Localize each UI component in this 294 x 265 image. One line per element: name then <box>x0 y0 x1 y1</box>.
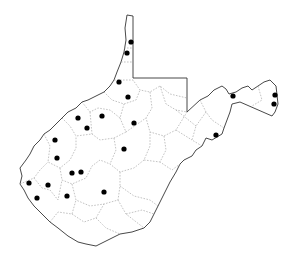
locality-dot <box>45 182 50 187</box>
locality-dot <box>75 115 80 120</box>
locality-dot <box>121 146 126 151</box>
locality-dot <box>84 125 89 130</box>
locality-dot <box>69 170 74 175</box>
locality-dot <box>213 132 218 137</box>
locality-dot <box>128 39 133 44</box>
west-virginia-map <box>0 0 294 265</box>
locality-dot <box>125 94 130 99</box>
locality-dot <box>116 79 121 84</box>
locality-dot <box>34 195 39 200</box>
state-outline <box>20 15 278 246</box>
locality-dot <box>101 189 106 194</box>
locality-dot <box>230 93 235 98</box>
locality-dot <box>272 92 277 97</box>
locality-dot <box>124 50 129 55</box>
locality-dot <box>52 137 57 142</box>
locality-dot <box>271 101 276 106</box>
locality-dot <box>54 155 59 160</box>
locality-dot <box>99 113 104 118</box>
locality-dot <box>64 193 69 198</box>
locality-dot <box>26 180 31 185</box>
locality-dot <box>78 169 83 174</box>
locality-dot <box>131 120 136 125</box>
